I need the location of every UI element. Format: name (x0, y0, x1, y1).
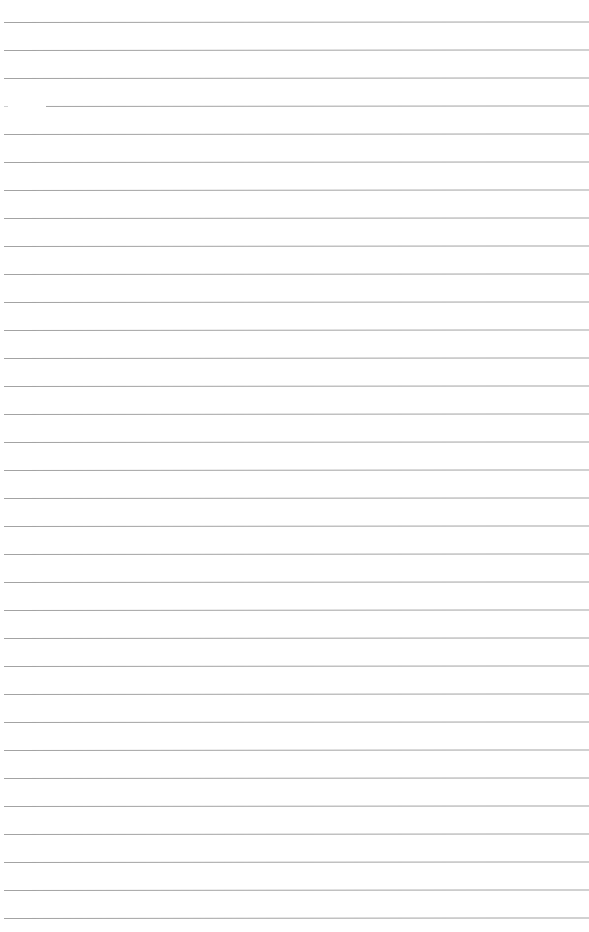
line-gap-artifact (8, 104, 46, 108)
ruled-line (4, 889, 589, 891)
ruled-line (4, 49, 589, 51)
ruled-line (4, 77, 589, 79)
ruled-line (4, 441, 589, 443)
ruled-line (4, 637, 589, 639)
ruled-line (4, 525, 589, 527)
ruled-line (4, 581, 589, 583)
ruled-line (4, 469, 589, 471)
ruled-line (4, 161, 589, 163)
ruled-line (4, 721, 589, 723)
lined-paper-sheet (0, 0, 589, 932)
ruled-line (4, 917, 589, 919)
ruled-line (4, 861, 589, 863)
scan-smudge (4, 106, 8, 107)
ruled-line (4, 609, 589, 611)
ruled-line (4, 301, 589, 303)
ruled-line (4, 805, 589, 807)
ruled-line (4, 189, 589, 191)
ruled-line (4, 133, 589, 135)
ruled-line (4, 105, 589, 107)
ruled-line (4, 357, 589, 359)
ruled-line (4, 273, 589, 275)
ruled-line (4, 777, 589, 779)
ruled-line (4, 413, 589, 415)
ruled-line (4, 21, 589, 23)
ruled-line (4, 693, 589, 695)
ruled-line (4, 217, 589, 219)
ruled-line (4, 553, 589, 555)
ruled-line (4, 329, 589, 331)
ruled-line (4, 833, 589, 835)
ruled-line (4, 385, 589, 387)
ruled-line (4, 245, 589, 247)
ruled-line (4, 665, 589, 667)
ruled-line (4, 749, 589, 751)
ruled-line (4, 497, 589, 499)
